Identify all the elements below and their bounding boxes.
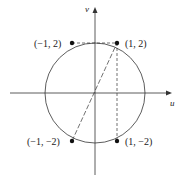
point-1-2 bbox=[115, 41, 119, 45]
point-1-neg2 bbox=[115, 139, 119, 143]
label-1-2: (1, 2) bbox=[125, 38, 147, 50]
u-axis-arrow-icon bbox=[166, 91, 172, 96]
label-neg1-2: (−1, 2) bbox=[34, 38, 61, 50]
label-neg1-neg2: (−1, −2) bbox=[27, 136, 60, 148]
u-axis-label: u bbox=[170, 98, 175, 108]
v-axis-label: v bbox=[85, 4, 89, 14]
v-axis-arrow-icon bbox=[93, 7, 98, 13]
point-neg1-neg2 bbox=[70, 139, 74, 143]
dashed-diameter bbox=[72, 43, 117, 141]
label-1-neg2: (1, −2) bbox=[125, 136, 152, 148]
diagram-canvas: (−1, 2) (1, 2) (−1, −2) (1, −2) u v bbox=[0, 0, 187, 179]
point-neg1-2 bbox=[70, 41, 74, 45]
